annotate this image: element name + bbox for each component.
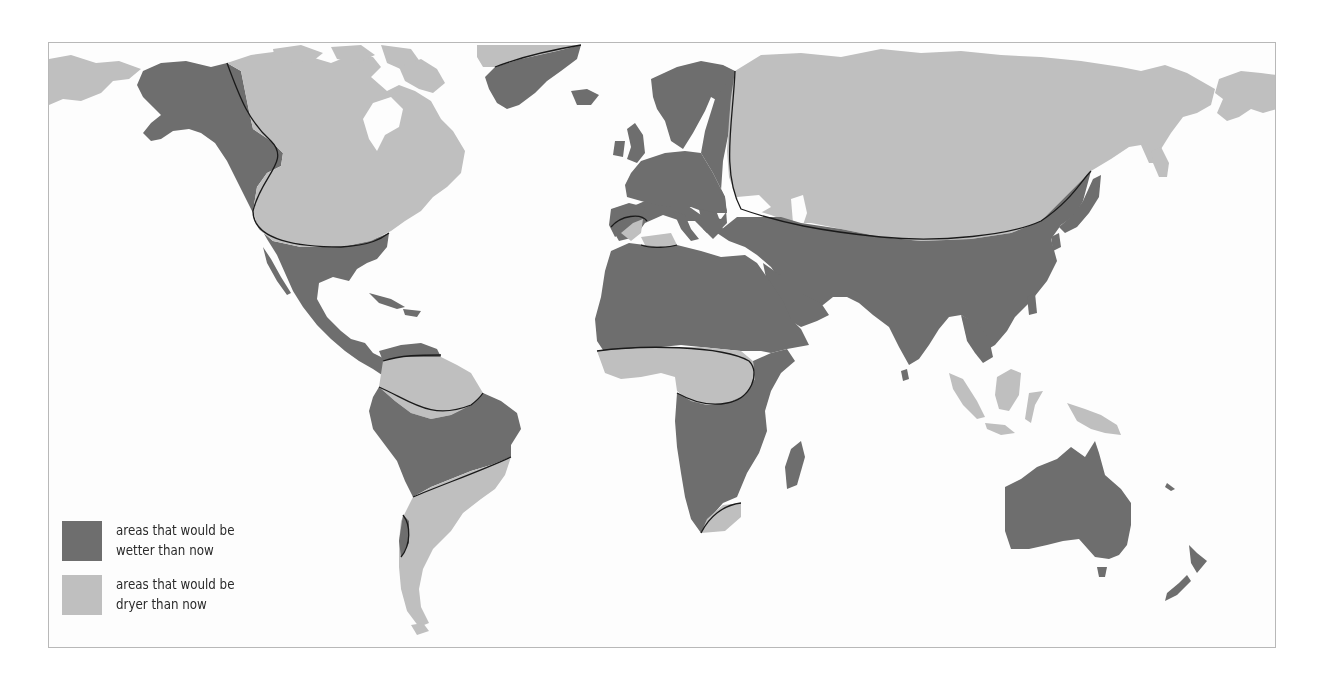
map-legend: areas that would be wetter than now area… xyxy=(62,521,260,629)
region-hispaniola xyxy=(403,309,421,317)
legend-swatch-dryer xyxy=(62,575,102,615)
region-java xyxy=(985,423,1015,435)
region-kamchatka xyxy=(1151,147,1169,177)
region-borneo xyxy=(995,369,1021,411)
region-iceland xyxy=(571,89,599,105)
region-sumatra xyxy=(949,373,985,419)
region-chukotka-left xyxy=(49,55,141,105)
region-uk xyxy=(627,123,645,163)
region-sulawesi xyxy=(1025,391,1043,423)
legend-label-wetter-line1: areas that would be xyxy=(116,520,234,540)
region-new-zealand-south xyxy=(1165,575,1191,601)
region-cuba xyxy=(369,293,405,309)
region-sahel-dry xyxy=(597,347,755,405)
legend-swatch-wetter xyxy=(62,521,102,561)
legend-label-wetter: areas that would be wetter than now xyxy=(116,520,234,560)
region-sri-lanka xyxy=(901,369,909,381)
region-madagascar xyxy=(785,441,805,489)
region-maghreb-dry xyxy=(641,233,677,247)
legend-label-wetter-line2: wetter than now xyxy=(116,540,234,560)
region-australia xyxy=(1005,441,1131,559)
region-new-caledonia xyxy=(1165,483,1175,491)
region-new-guinea xyxy=(1067,403,1121,435)
region-chukotka-right xyxy=(1215,71,1276,121)
region-new-zealand-north xyxy=(1189,545,1207,573)
legend-item-dryer: areas that would be dryer than now xyxy=(62,575,260,615)
legend-label-dryer-line2: dryer than now xyxy=(116,594,234,614)
region-tasmania xyxy=(1097,567,1107,577)
region-tierra-del-fuego xyxy=(411,623,429,635)
legend-label-dryer: areas that would be dryer than now xyxy=(116,574,234,614)
legend-label-dryer-line1: areas that would be xyxy=(116,574,234,594)
legend-item-wetter: areas that would be wetter than now xyxy=(62,521,260,561)
region-ireland xyxy=(613,141,625,157)
region-philippines xyxy=(1027,293,1037,315)
